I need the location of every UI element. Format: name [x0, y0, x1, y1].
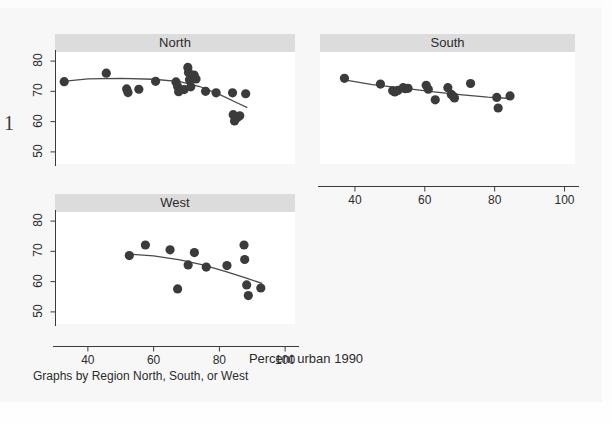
data-point	[141, 240, 150, 249]
data-point	[60, 77, 69, 86]
x-tick-label: 60	[410, 193, 440, 207]
panel-south: South406080100	[320, 34, 575, 164]
data-point	[125, 251, 134, 260]
data-point	[202, 262, 211, 271]
data-point	[201, 87, 210, 96]
margin-page-number: 1	[4, 112, 14, 135]
data-point	[466, 79, 475, 88]
panel-title-west: West	[55, 194, 295, 212]
y-tick-label: 50	[31, 300, 45, 322]
data-point	[492, 93, 501, 102]
data-point	[134, 85, 143, 94]
y-tick-label: 50	[31, 140, 45, 162]
data-point	[340, 74, 349, 83]
data-point	[450, 93, 459, 102]
y-tick-label: 80	[31, 209, 45, 231]
panel-north: North50607080	[55, 34, 295, 164]
data-point	[239, 240, 248, 249]
x-tick-label: 80	[480, 193, 510, 207]
data-point	[102, 69, 111, 78]
data-point	[186, 82, 195, 91]
data-point	[165, 245, 174, 254]
data-point	[431, 95, 440, 104]
y-tick-label: 80	[31, 49, 45, 71]
data-point	[424, 85, 433, 94]
x-tick-label: 100	[550, 193, 580, 207]
panel-title-south: South	[320, 34, 575, 52]
data-point	[494, 103, 503, 112]
y-tick-label: 70	[31, 239, 45, 261]
data-point	[244, 291, 253, 300]
y-tick-label: 60	[31, 110, 45, 132]
page-edge-top	[0, 0, 612, 8]
data-point	[212, 88, 221, 97]
data-point	[505, 91, 514, 100]
data-point	[376, 79, 385, 88]
data-point	[191, 74, 200, 83]
data-point	[222, 261, 231, 270]
plot-canvas-north	[55, 52, 335, 204]
data-point	[242, 280, 251, 289]
panel-title-north: North	[55, 34, 295, 52]
data-point	[241, 89, 250, 98]
y-tick-label: 70	[31, 79, 45, 101]
x-tick-label: 40	[340, 193, 370, 207]
data-point	[173, 284, 182, 293]
y-tick-label: 60	[31, 270, 45, 292]
data-point	[240, 255, 249, 264]
data-point	[151, 77, 160, 86]
figure-note: Graphs by Region North, South, or West	[33, 369, 248, 383]
data-point	[190, 248, 199, 257]
data-point	[123, 88, 132, 97]
plot-canvas-south	[320, 52, 612, 204]
data-point	[403, 84, 412, 93]
data-point	[235, 111, 244, 120]
data-point	[256, 283, 265, 292]
x-axis-title: Percent urban 1990	[0, 351, 612, 366]
panel-west: West50607080406080100	[55, 194, 295, 324]
page-edge-bottom	[0, 402, 612, 424]
plot-canvas-west	[55, 212, 335, 364]
data-point	[228, 88, 237, 97]
data-point	[184, 260, 193, 269]
